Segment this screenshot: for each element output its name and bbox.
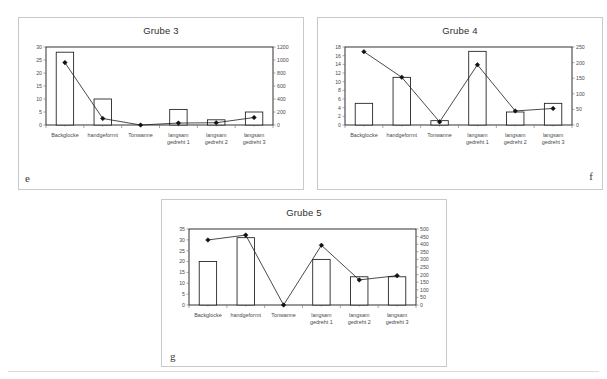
figure-page: Grube 3 05101520253002004006008001000120… bbox=[0, 0, 607, 379]
chart-plot-grube-5: 0510152025303505010015020025030035040045… bbox=[162, 200, 446, 366]
svg-text:gedreht 1: gedreht 1 bbox=[167, 139, 190, 145]
svg-text:langsam: langsam bbox=[168, 132, 189, 138]
svg-text:gedreht 3: gedreht 3 bbox=[386, 319, 409, 325]
chart-plot-grube-3: 051015202530020040060080010001200Backglo… bbox=[19, 18, 303, 189]
svg-text:20: 20 bbox=[179, 258, 185, 264]
svg-text:langsam: langsam bbox=[387, 312, 408, 318]
svg-text:gedreht 3: gedreht 3 bbox=[542, 139, 565, 145]
svg-text:2: 2 bbox=[338, 113, 341, 119]
svg-text:1200: 1200 bbox=[277, 44, 289, 50]
svg-text:8: 8 bbox=[338, 87, 341, 93]
svg-text:450: 450 bbox=[420, 234, 429, 240]
svg-text:200: 200 bbox=[277, 109, 286, 115]
figure-letter-g: g bbox=[170, 350, 176, 362]
svg-text:handgeformt: handgeformt bbox=[387, 132, 418, 138]
svg-text:12: 12 bbox=[335, 70, 341, 76]
svg-text:langsam: langsam bbox=[244, 132, 265, 138]
svg-text:200: 200 bbox=[420, 272, 429, 278]
page-bottom-rule bbox=[8, 371, 599, 372]
svg-text:100: 100 bbox=[420, 287, 429, 293]
svg-text:gedreht 2: gedreht 2 bbox=[205, 139, 228, 145]
figure-letter-e: e bbox=[25, 172, 30, 184]
svg-text:0: 0 bbox=[420, 302, 423, 308]
chart-card-grube-5: Grube 5 05101520253035050100150200250300… bbox=[161, 199, 447, 367]
svg-text:handgeformt: handgeformt bbox=[88, 132, 119, 138]
svg-text:16: 16 bbox=[335, 53, 341, 59]
svg-text:100: 100 bbox=[576, 91, 585, 97]
svg-text:langsam: langsam bbox=[206, 132, 227, 138]
svg-text:0: 0 bbox=[182, 302, 185, 308]
svg-text:500: 500 bbox=[420, 226, 429, 232]
svg-text:langsam: langsam bbox=[311, 312, 332, 318]
svg-text:0: 0 bbox=[277, 122, 280, 128]
svg-text:400: 400 bbox=[420, 241, 429, 247]
svg-text:20: 20 bbox=[36, 70, 42, 76]
svg-text:25: 25 bbox=[179, 248, 185, 254]
svg-text:0: 0 bbox=[338, 122, 341, 128]
svg-text:langsam: langsam bbox=[505, 132, 526, 138]
svg-text:25: 25 bbox=[36, 57, 42, 63]
svg-text:14: 14 bbox=[335, 61, 341, 67]
svg-text:150: 150 bbox=[576, 75, 585, 81]
chart-plot-grube-4: 024681012141618050100150200250Backglocke… bbox=[318, 18, 602, 189]
svg-text:5: 5 bbox=[182, 291, 185, 297]
svg-text:Backglocke: Backglocke bbox=[194, 312, 222, 318]
svg-text:Tonwanne: Tonwanne bbox=[128, 132, 153, 138]
svg-text:Tonwanne: Tonwanne bbox=[427, 132, 452, 138]
svg-text:350: 350 bbox=[420, 249, 429, 255]
svg-text:800: 800 bbox=[277, 70, 286, 76]
figure-letter-f: f bbox=[589, 170, 593, 182]
svg-text:gedreht 1: gedreht 1 bbox=[310, 319, 333, 325]
svg-text:gedreht 1: gedreht 1 bbox=[466, 139, 489, 145]
svg-text:langsam: langsam bbox=[349, 312, 370, 318]
svg-text:10: 10 bbox=[179, 280, 185, 286]
svg-text:150: 150 bbox=[420, 279, 429, 285]
svg-text:Backglocke: Backglocke bbox=[350, 132, 378, 138]
svg-text:10: 10 bbox=[36, 96, 42, 102]
chart-card-grube-3: Grube 3 05101520253002004006008001000120… bbox=[18, 17, 304, 190]
svg-text:1000: 1000 bbox=[277, 57, 289, 63]
svg-text:35: 35 bbox=[179, 226, 185, 232]
svg-text:600: 600 bbox=[277, 83, 286, 89]
svg-text:10: 10 bbox=[335, 79, 341, 85]
svg-text:gedreht 3: gedreht 3 bbox=[243, 139, 266, 145]
svg-text:Tonwanne: Tonwanne bbox=[271, 312, 296, 318]
svg-text:langsam: langsam bbox=[543, 132, 564, 138]
svg-text:0: 0 bbox=[39, 122, 42, 128]
svg-text:250: 250 bbox=[420, 264, 429, 270]
svg-text:250: 250 bbox=[576, 44, 585, 50]
svg-text:50: 50 bbox=[420, 294, 426, 300]
svg-text:18: 18 bbox=[335, 44, 341, 50]
svg-text:handgeformt: handgeformt bbox=[231, 312, 262, 318]
svg-text:6: 6 bbox=[338, 96, 341, 102]
svg-text:300: 300 bbox=[420, 256, 429, 262]
svg-text:50: 50 bbox=[576, 106, 582, 112]
svg-text:gedreht 2: gedreht 2 bbox=[504, 139, 527, 145]
svg-text:0: 0 bbox=[576, 122, 579, 128]
svg-text:15: 15 bbox=[36, 83, 42, 89]
svg-text:15: 15 bbox=[179, 269, 185, 275]
svg-text:5: 5 bbox=[39, 109, 42, 115]
svg-text:Backglocke: Backglocke bbox=[51, 132, 79, 138]
svg-text:langsam: langsam bbox=[467, 132, 488, 138]
svg-text:gedreht 2: gedreht 2 bbox=[348, 319, 371, 325]
svg-text:4: 4 bbox=[338, 105, 341, 111]
svg-text:30: 30 bbox=[36, 44, 42, 50]
chart-card-grube-4: Grube 4 024681012141618050100150200250Ba… bbox=[317, 17, 603, 190]
svg-text:30: 30 bbox=[179, 237, 185, 243]
svg-text:400: 400 bbox=[277, 96, 286, 102]
svg-text:200: 200 bbox=[576, 60, 585, 66]
